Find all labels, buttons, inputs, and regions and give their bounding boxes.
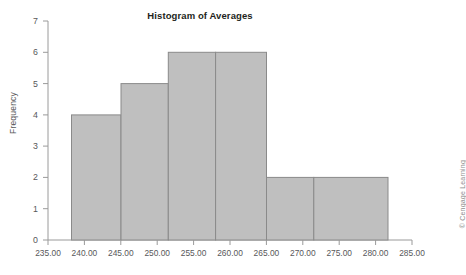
histogram-bar bbox=[267, 177, 314, 240]
histogram-bar bbox=[168, 52, 215, 240]
y-axis-ticks bbox=[43, 21, 48, 240]
x-tick-label: 240.00 bbox=[72, 248, 98, 258]
histogram-bars bbox=[72, 52, 389, 240]
y-tick-label: 7 bbox=[33, 16, 38, 26]
x-axis-ticks bbox=[48, 240, 412, 245]
histogram-bar bbox=[216, 52, 267, 240]
y-tick-label: 5 bbox=[33, 79, 38, 89]
y-tick-label: 2 bbox=[33, 172, 38, 182]
x-tick-label: 280.00 bbox=[363, 248, 389, 258]
y-tick-label: 6 bbox=[33, 47, 38, 57]
y-axis-tick-labels: 0 1 2 3 4 5 6 7 bbox=[33, 16, 38, 245]
x-tick-label: 250.00 bbox=[144, 248, 170, 258]
copyright-credit: © Cengage Learning bbox=[459, 160, 466, 228]
x-tick-label: 235.00 bbox=[35, 248, 61, 258]
x-tick-label: 265.00 bbox=[254, 248, 280, 258]
x-tick-label: 260.00 bbox=[217, 248, 243, 258]
y-tick-label: 1 bbox=[33, 204, 38, 214]
x-axis-tick-labels: 235.00 240.00 245.00 250.00 255.00 260.0… bbox=[35, 248, 425, 258]
histogram-bar bbox=[314, 177, 388, 240]
x-tick-label: 255.00 bbox=[181, 248, 207, 258]
x-tick-label: 275.00 bbox=[326, 248, 352, 258]
y-tick-label: 4 bbox=[33, 110, 38, 120]
histogram-bar bbox=[121, 84, 168, 240]
x-tick-label: 245.00 bbox=[108, 248, 134, 258]
x-tick-label: 285.00 bbox=[399, 248, 425, 258]
y-tick-label: 3 bbox=[33, 141, 38, 151]
histogram-bar bbox=[72, 115, 122, 240]
x-tick-label: 270.00 bbox=[290, 248, 316, 258]
y-tick-label: 0 bbox=[33, 235, 38, 245]
